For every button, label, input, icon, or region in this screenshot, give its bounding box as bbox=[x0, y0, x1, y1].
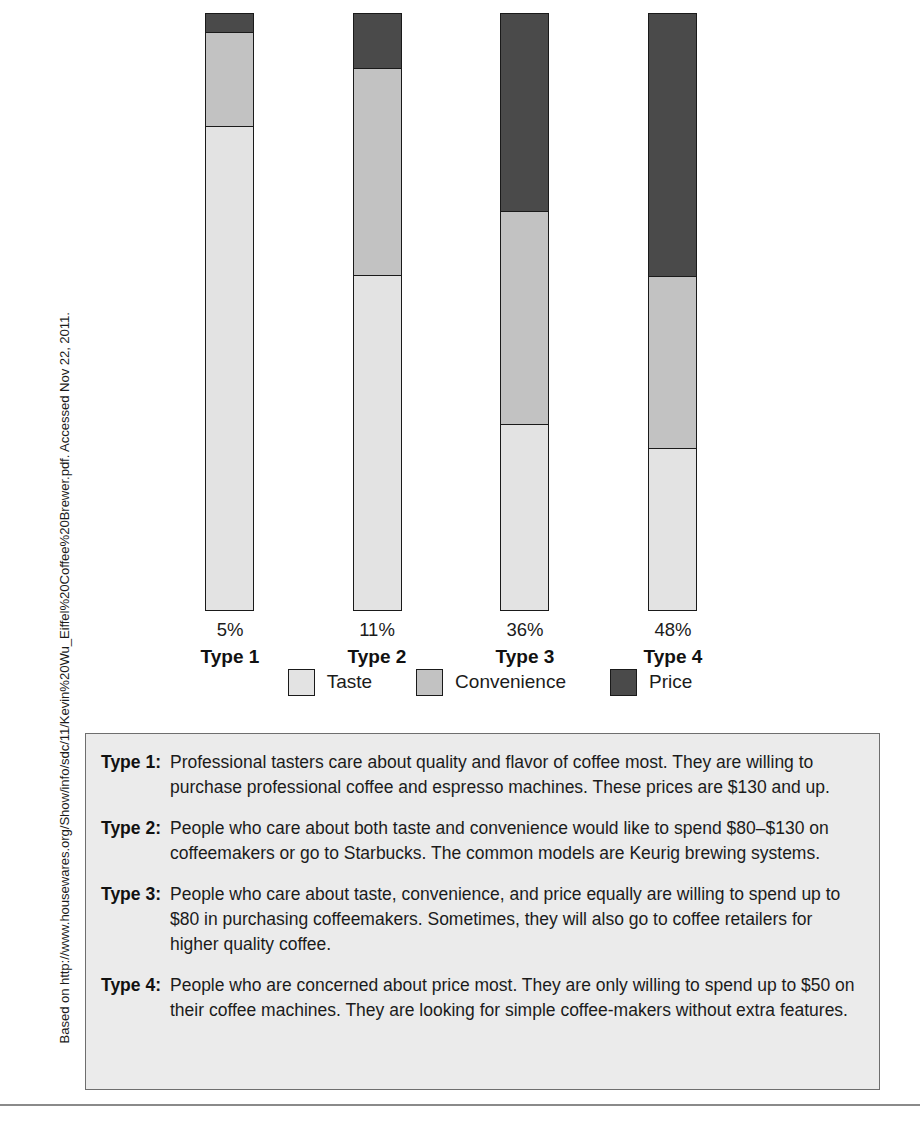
x-axis-label-group-4: 48% Type 4 bbox=[603, 618, 743, 670]
source-citation: Based on http://www.housewares.org/Show/… bbox=[0, 0, 60, 1100]
type-description-1: Type 1: Professional tasters care about … bbox=[101, 750, 857, 800]
legend-label-price: Price bbox=[649, 671, 692, 693]
legend-label-convenience: Convenience bbox=[455, 671, 566, 693]
type-description-label: Type 1: bbox=[101, 750, 170, 800]
bar-stack-type-3[interactable] bbox=[500, 13, 549, 611]
bar-group-type-3 bbox=[500, 13, 549, 611]
x-axis-label-group-2: 11% Type 2 bbox=[307, 618, 447, 670]
legend-item-convenience: Convenience bbox=[416, 669, 566, 696]
bar-segment-taste bbox=[354, 276, 401, 610]
x-axis-label-group-3: 36% Type 3 bbox=[455, 618, 595, 670]
type-description-label: Type 2: bbox=[101, 816, 170, 866]
bar-segment-convenience bbox=[501, 211, 548, 426]
bar-stack-type-2[interactable] bbox=[353, 13, 402, 611]
type-description-label: Type 4: bbox=[101, 973, 170, 1023]
legend-swatch-convenience bbox=[416, 669, 443, 696]
legend-swatch-price bbox=[610, 669, 637, 696]
bar-segment-convenience bbox=[649, 276, 696, 449]
bar-group-type-1 bbox=[205, 13, 254, 611]
bar-segment-convenience bbox=[354, 68, 401, 277]
bar-segment-price bbox=[649, 14, 696, 276]
bar-segment-convenience bbox=[206, 32, 253, 127]
type-description-label: Type 3: bbox=[101, 882, 170, 957]
percent-label: 36% bbox=[455, 618, 595, 642]
percent-label: 48% bbox=[603, 618, 743, 642]
bars-row bbox=[60, 13, 920, 611]
type-description-text: Professional tasters care about quality … bbox=[170, 750, 857, 800]
percent-label: 11% bbox=[307, 618, 447, 642]
legend-item-price: Price bbox=[610, 669, 692, 696]
bar-group-type-2 bbox=[353, 13, 402, 611]
legend-swatch-taste bbox=[288, 669, 315, 696]
bar-segment-price bbox=[354, 14, 401, 68]
bar-segment-taste bbox=[501, 425, 548, 610]
type-descriptions-box: Type 1: Professional tasters care about … bbox=[85, 733, 880, 1090]
bar-segment-taste bbox=[206, 127, 253, 610]
type-description-4: Type 4: People who are concerned about p… bbox=[101, 973, 857, 1023]
bar-segment-price bbox=[206, 14, 253, 32]
type-description-2: Type 2: People who care about both taste… bbox=[101, 816, 857, 866]
chart-legend: Taste Convenience Price bbox=[60, 664, 920, 700]
type-description-text: People who are concerned about price mos… bbox=[170, 973, 857, 1023]
legend-label-taste: Taste bbox=[327, 671, 372, 693]
stacked-bar-chart: 5% Type 1 11% Type 2 36% Type 3 48% Type… bbox=[60, 0, 920, 700]
legend-item-taste: Taste bbox=[288, 669, 372, 696]
type-description-text: People who care about both taste and con… bbox=[170, 816, 857, 866]
percent-label: 5% bbox=[160, 618, 300, 642]
bar-stack-type-4[interactable] bbox=[648, 13, 697, 611]
type-description-text: People who care about taste, convenience… bbox=[170, 882, 857, 957]
bar-group-type-4 bbox=[648, 13, 697, 611]
bar-segment-price bbox=[501, 14, 548, 211]
type-description-3: Type 3: People who care about taste, con… bbox=[101, 882, 857, 957]
x-axis-label-group-1: 5% Type 1 bbox=[160, 618, 300, 670]
bar-segment-taste bbox=[649, 449, 696, 610]
footer-divider bbox=[0, 1104, 920, 1106]
bar-stack-type-1[interactable] bbox=[205, 13, 254, 611]
